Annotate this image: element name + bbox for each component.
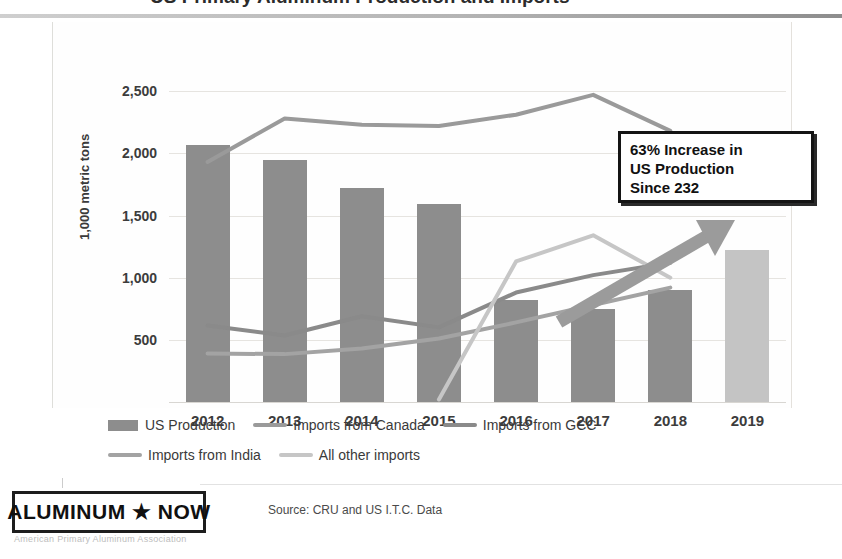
y-tick-2500: 2,500 [122, 83, 157, 99]
legend-label: Imports from Canada [293, 417, 425, 433]
legend-label: US Production [145, 417, 235, 433]
legend-row-2: Imports from IndiaAll other imports [108, 446, 438, 470]
legend-swatch-icon [108, 453, 142, 457]
legend-swatch-icon [108, 420, 138, 431]
footer-tick-mark [62, 478, 63, 488]
y-tick-1500: 1,500 [122, 208, 157, 224]
legend-swatch-icon [443, 423, 477, 427]
callout-line-3: Since 232 [630, 178, 802, 197]
title-divider [0, 14, 842, 18]
increase-callout: 63% Increase in US Production Since 232 [618, 131, 814, 203]
legend-swatch-icon [253, 423, 287, 427]
legend-item-us-production[interactable]: US Production [108, 417, 235, 433]
legend-item-imports-from-gcc[interactable]: Imports from GCC [443, 417, 597, 433]
y-tick-1000: 1,000 [122, 270, 157, 286]
callout-line-1: 63% Increase in [630, 140, 802, 159]
legend-item-imports-from-india[interactable]: Imports from India [108, 447, 261, 463]
legend-swatch-icon [279, 453, 313, 457]
legend-label: Imports from GCC [483, 417, 597, 433]
legend-item-all-other-imports[interactable]: All other imports [279, 447, 420, 463]
y-tick-2000: 2,000 [122, 145, 157, 161]
plot-area: 2,500 2,000 1,500 1,000 500 201220132014… [169, 60, 786, 402]
growth-arrow-icon [559, 220, 735, 322]
legend-row-1: US ProductionImports from CanadaImports … [108, 416, 614, 440]
page-title: US Primary Aluminum Production and Impor… [150, 0, 569, 8]
logo-subtitle: American Primary Aluminum Association [14, 534, 187, 544]
axis-baseline [169, 402, 786, 403]
callout-line-2: US Production [630, 159, 802, 178]
legend-label: Imports from India [148, 447, 261, 463]
source-note: Source: CRU and US I.T.C. Data [268, 503, 442, 517]
chart-legend: US ProductionImports from CanadaImports … [108, 416, 808, 474]
legend-label: All other imports [319, 447, 420, 463]
line-imports-from-canada [208, 95, 671, 162]
legend-item-imports-from-canada[interactable]: Imports from Canada [253, 417, 425, 433]
y-tick-500: 500 [134, 332, 157, 348]
logo-text: ALUMINUM ★ NOW [7, 500, 210, 524]
y-axis-title: 1,000 metric tons [77, 134, 92, 240]
chart-frame: 1,000 metric tons 2,500 2,000 1,500 1,00… [52, 22, 792, 408]
aluminum-now-logo: ALUMINUM ★ NOW [12, 491, 206, 533]
line-series-group [169, 60, 786, 402]
footer-divider [200, 484, 842, 485]
line-all-other-imports [439, 235, 670, 399]
